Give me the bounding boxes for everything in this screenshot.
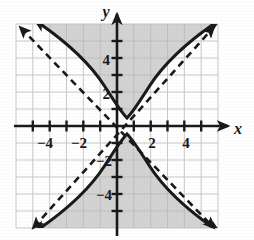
y-tick-label-minus2: −2 [96,153,112,169]
graph-figure: −4 −2 2 4 4 2 −2 −4 x y [0,0,254,240]
x-tick-label-minus2: −2 [71,135,87,151]
y-tick-label-minus4: −4 [96,187,113,203]
x-axis-label: x [233,120,242,137]
y-axis-label: y [100,3,110,21]
y-tick-label-2: 2 [103,86,111,102]
coordinate-plane-svg: −4 −2 2 4 4 2 −2 −4 x y [0,0,254,240]
x-tick-label-minus4: −4 [37,135,54,151]
x-tick-label-2: 2 [148,135,156,151]
x-tick-label-4: 4 [182,135,190,151]
y-tick-label-4: 4 [103,52,111,68]
